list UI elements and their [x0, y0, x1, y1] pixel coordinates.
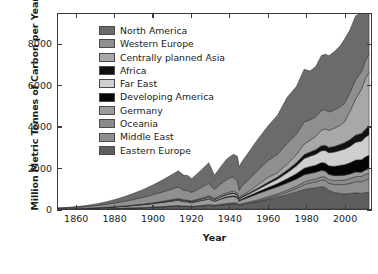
x-tick-mark — [114, 205, 115, 210]
y-tick-mark — [57, 85, 62, 86]
x-tick-label: 1860 — [56, 213, 96, 224]
x-tick-label: 2000 — [325, 213, 365, 224]
x-tick-mark — [306, 205, 307, 210]
x-tick-mark — [152, 205, 153, 210]
legend-swatch-icon — [99, 119, 115, 128]
legend-item[interactable]: Oceania — [99, 117, 225, 130]
legend-label: Developing America — [120, 92, 214, 101]
y-tick-label: 2000 — [6, 163, 52, 174]
y-tick-mark — [57, 44, 62, 45]
y-tick-mark — [57, 168, 62, 169]
legend-label: Centrally planned Asia — [120, 53, 225, 62]
x-axis-title: Year — [57, 232, 372, 243]
legend-swatch-icon — [99, 106, 115, 115]
x-tick-mark-top — [229, 13, 230, 18]
x-tick-mark — [76, 205, 77, 210]
y-tick-mark — [57, 209, 62, 210]
legend-item[interactable]: Germany — [99, 104, 225, 117]
x-tick-mark — [191, 205, 192, 210]
legend-item[interactable]: Western Europe — [99, 37, 225, 50]
y-tick-label: 8000 — [6, 38, 52, 49]
x-tick-mark-top — [114, 13, 115, 18]
legend-swatch-icon — [99, 39, 115, 48]
x-tick-mark-top — [306, 13, 307, 18]
legend-swatch-icon — [99, 133, 115, 142]
legend-swatch-icon — [99, 26, 115, 35]
x-tick-mark — [268, 205, 269, 210]
legend-swatch-icon — [99, 79, 115, 88]
y-tick-mark-right — [367, 126, 372, 127]
legend-item[interactable]: Eastern Europe — [99, 144, 225, 157]
y-tick-mark-right — [367, 85, 372, 86]
x-tick-mark-top — [345, 13, 346, 18]
legend-label: Oceania — [120, 119, 158, 128]
legend-swatch-icon — [99, 146, 115, 155]
legend-label: Far East — [120, 79, 157, 88]
legend-item[interactable]: Centrally planned Asia — [99, 51, 225, 64]
x-tick-label: 1980 — [287, 213, 327, 224]
legend-item[interactable]: Far East — [99, 77, 225, 90]
legend-swatch-icon — [99, 66, 115, 75]
legend-swatch-icon — [99, 93, 115, 102]
y-tick-label: 4000 — [6, 121, 52, 132]
x-tick-mark-top — [268, 13, 269, 18]
legend-label: Western Europe — [120, 39, 194, 48]
x-tick-mark — [345, 205, 346, 210]
legend-item[interactable]: North America — [99, 24, 225, 37]
x-tick-label: 1900 — [133, 213, 173, 224]
x-tick-label: 1940 — [210, 213, 250, 224]
figure-canvas: Million Metric Tonnes of Carbon per Year… — [0, 0, 378, 274]
legend-item[interactable]: Africa — [99, 64, 225, 77]
legend-item[interactable]: Middle East — [99, 130, 225, 143]
legend-item[interactable]: Developing America — [99, 90, 225, 103]
x-tick-mark-top — [152, 13, 153, 18]
x-tick-mark — [229, 205, 230, 210]
y-tick-label: 6000 — [6, 80, 52, 91]
legend-label: Africa — [120, 66, 147, 75]
y-tick-mark-right — [367, 44, 372, 45]
chart-legend: North AmericaWestern EuropeCentrally pla… — [99, 24, 225, 157]
legend-label: Middle East — [120, 132, 174, 141]
x-tick-label: 1880 — [95, 213, 135, 224]
legend-label: North America — [120, 26, 187, 35]
y-tick-mark — [57, 126, 62, 127]
x-tick-mark-top — [191, 13, 192, 18]
legend-label: Germany — [120, 106, 163, 115]
y-tick-label: 0 — [6, 204, 52, 215]
legend-swatch-icon — [99, 53, 115, 62]
y-tick-mark-right — [367, 168, 372, 169]
legend-label: Eastern Europe — [120, 146, 191, 155]
y-tick-mark-right — [367, 209, 372, 210]
x-tick-label: 1920 — [171, 213, 211, 224]
x-tick-mark-top — [76, 13, 77, 18]
x-tick-label: 1960 — [248, 213, 288, 224]
